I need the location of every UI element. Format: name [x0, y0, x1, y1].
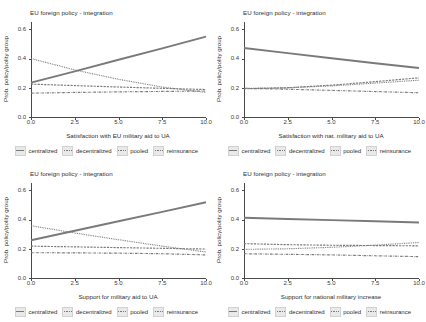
series-layer [213, 161, 426, 322]
legend-label: pooled [343, 148, 361, 154]
figure-panel-grid: EU foreign policy - integrationProb. pol… [0, 0, 426, 322]
legend-item-reinsurance[interactable]: reinsurance [153, 146, 198, 156]
legend-label: pooled [343, 309, 361, 315]
series-layer [213, 0, 426, 161]
legend-label: reinsurance [380, 148, 411, 154]
legend-swatch-dashdotted-icon [153, 307, 164, 317]
legend-swatch-dashed-icon [62, 307, 73, 317]
legend-swatch-solid-icon [15, 307, 26, 317]
legend-label: centralized [241, 148, 270, 154]
legend-label: decentralized [289, 309, 325, 315]
series-line-reinsurance [31, 91, 206, 93]
legend-swatch-dotted-icon [330, 146, 341, 156]
legend-item-pooled[interactable]: pooled [330, 307, 362, 317]
series-line-reinsurance [244, 88, 419, 92]
legend-item-pooled[interactable]: pooled [117, 307, 149, 317]
legend-item-centralized[interactable]: centralized [15, 307, 58, 317]
legend-swatch-dashdotted-icon [366, 307, 377, 317]
legend-item-centralized[interactable]: centralized [228, 146, 271, 156]
series-line-decentralized [244, 244, 419, 246]
series-layer [0, 0, 213, 161]
legend-label: pooled [130, 148, 148, 154]
series-layer [0, 161, 213, 322]
legend-label: decentralized [76, 148, 112, 154]
legend-label: pooled [130, 309, 148, 315]
panel-bottom-left: EU foreign policy - integrationProb. pol… [0, 161, 213, 322]
legend: centralizeddecentralizedpooledreinsuranc… [217, 144, 422, 157]
series-line-centralized [31, 37, 206, 83]
legend-swatch-dashdotted-icon [153, 146, 164, 156]
legend-label: centralized [241, 309, 270, 315]
legend-label: decentralized [289, 148, 325, 154]
legend: centralizeddecentralizedpooledreinsuranc… [217, 305, 422, 318]
legend-swatch-dashed-icon [62, 146, 73, 156]
series-line-decentralized [244, 78, 419, 89]
legend-swatch-dashed-icon [275, 146, 286, 156]
legend-swatch-dotted-icon [117, 307, 128, 317]
legend-label: reinsurance [167, 148, 198, 154]
legend-item-decentralized[interactable]: decentralized [275, 307, 324, 317]
series-line-centralized [244, 48, 419, 68]
legend-item-centralized[interactable]: centralized [228, 307, 271, 317]
legend-item-reinsurance[interactable]: reinsurance [366, 146, 411, 156]
panel-bottom-right: EU foreign policy - integrationProb. pol… [213, 161, 426, 322]
panel-top-left: EU foreign policy - integrationProb. pol… [0, 0, 213, 161]
series-line-pooled [244, 80, 419, 88]
legend-label: decentralized [76, 309, 112, 315]
legend-swatch-dotted-icon [117, 146, 128, 156]
legend-item-pooled[interactable]: pooled [117, 146, 149, 156]
series-line-reinsurance [244, 254, 419, 257]
legend-swatch-solid-icon [228, 307, 239, 317]
legend-swatch-dashed-icon [275, 307, 286, 317]
legend-swatch-dotted-icon [330, 307, 341, 317]
legend-item-decentralized[interactable]: decentralized [62, 146, 111, 156]
series-line-centralized [31, 202, 206, 240]
legend-item-centralized[interactable]: centralized [15, 146, 58, 156]
legend-swatch-dashdotted-icon [366, 146, 377, 156]
series-line-reinsurance [31, 253, 206, 255]
legend-label: reinsurance [167, 309, 198, 315]
series-line-centralized [244, 218, 419, 223]
legend-swatch-solid-icon [228, 146, 239, 156]
legend-item-pooled[interactable]: pooled [330, 146, 362, 156]
legend-label: centralized [28, 309, 57, 315]
legend-label: reinsurance [380, 309, 411, 315]
panel-top-right: EU foreign policy - integrationProb. pol… [213, 0, 426, 161]
legend: centralizeddecentralizedpooledreinsuranc… [4, 305, 209, 318]
legend-label: centralized [28, 148, 57, 154]
legend-item-decentralized[interactable]: decentralized [62, 307, 111, 317]
legend-item-reinsurance[interactable]: reinsurance [366, 307, 411, 317]
series-line-decentralized [31, 246, 206, 249]
legend-item-decentralized[interactable]: decentralized [275, 146, 324, 156]
legend-swatch-solid-icon [15, 146, 26, 156]
legend: centralizeddecentralizedpooledreinsuranc… [4, 144, 209, 157]
legend-item-reinsurance[interactable]: reinsurance [153, 307, 198, 317]
